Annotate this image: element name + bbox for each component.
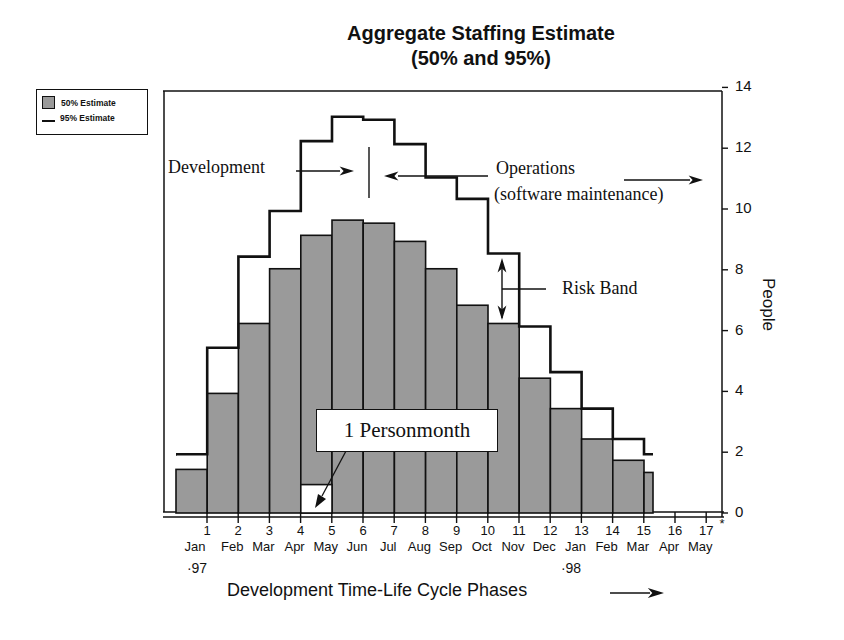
bar-50 xyxy=(550,409,581,513)
y-tick-label: 6 xyxy=(735,321,743,338)
year-97-label: ·97 xyxy=(179,560,215,576)
bar-50 xyxy=(207,393,238,513)
bar-50 xyxy=(301,235,332,513)
y-axis-label: People xyxy=(758,278,778,331)
y-tick-label: 8 xyxy=(735,260,743,277)
operations-sub-label: (software maintenance) xyxy=(494,184,663,205)
x-tick-month: May xyxy=(682,539,718,554)
y-tick-label: 2 xyxy=(735,442,743,459)
operations-label: Operations xyxy=(496,158,575,179)
personmonth-callout: 1 Personmonth xyxy=(316,409,498,452)
y-tick-label: 10 xyxy=(735,199,752,216)
bar-50 xyxy=(582,439,613,513)
bar-50 xyxy=(176,469,207,513)
x-axis-label: Development Time-Life Cycle Phases xyxy=(227,580,527,601)
year-98-label: ·98 xyxy=(553,560,589,576)
asterisk-mark: * xyxy=(712,516,732,531)
bar-50 xyxy=(270,269,301,513)
development-label: Development xyxy=(168,157,265,178)
y-tick-label: 4 xyxy=(735,381,743,398)
bar-50 xyxy=(644,472,653,513)
bar-50 xyxy=(426,269,457,513)
risk-band-label: Risk Band xyxy=(562,278,638,299)
bar-50 xyxy=(238,323,269,513)
y-tick-label: 14 xyxy=(735,77,752,94)
y-tick-label: 12 xyxy=(735,138,752,155)
bar-50 xyxy=(394,241,425,513)
bar-50 xyxy=(519,378,550,513)
bar-50 xyxy=(613,460,644,513)
bar-50 xyxy=(363,223,394,513)
y-tick-label: 0 xyxy=(735,503,743,520)
x-tick-month: Jan xyxy=(177,539,213,554)
